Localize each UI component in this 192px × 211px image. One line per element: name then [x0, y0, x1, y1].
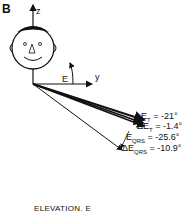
angle-arc	[70, 63, 73, 84]
head-figure	[10, 26, 56, 69]
z-axis-label: z	[36, 6, 41, 16]
y-axis-label: y	[95, 72, 100, 82]
footer-caption: ELEVATION, E	[34, 204, 91, 211]
annotation-delta-eqrs: ΔEQRS = -10.9°	[122, 143, 181, 157]
diagram-canvas	[0, 0, 192, 211]
angle-label: E	[62, 74, 68, 84]
